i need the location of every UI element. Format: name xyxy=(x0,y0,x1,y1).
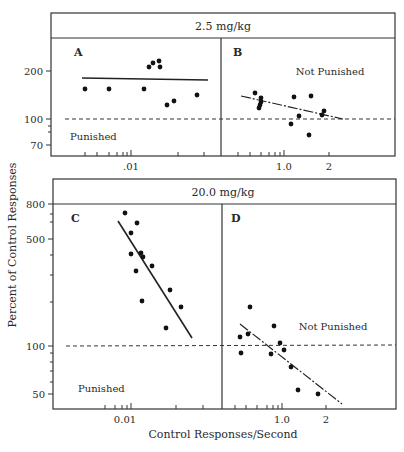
lower-x-ticks-right xyxy=(235,403,326,409)
lower-frame xyxy=(53,179,396,409)
lower-y-tick-800: 800 xyxy=(26,199,45,210)
y-axis-label: Percent of Control Responses xyxy=(6,162,19,327)
lower-y-tick-100: 100 xyxy=(26,341,45,352)
upper-x-tick-1: 1.0 xyxy=(276,161,292,172)
panel-d-letter: D xyxy=(231,212,241,225)
panel-a-regression-line xyxy=(82,78,208,80)
panel-c-region-label: Punished xyxy=(78,383,125,394)
lower-x-tick-001: 0.01 xyxy=(114,414,136,425)
panel-a-letter: A xyxy=(73,46,83,59)
lower-x-ticks-left xyxy=(105,403,203,409)
lower-reference-line-100 xyxy=(66,345,396,346)
panel-c-regression-line xyxy=(118,221,192,338)
upper-title: 2.5 mg/kg xyxy=(195,20,251,33)
panel-b-regression-line xyxy=(241,96,343,119)
upper-y-tick-70: 70 xyxy=(30,140,43,151)
lower-y-tick-50: 50 xyxy=(32,389,45,400)
upper-y-tick-200: 200 xyxy=(24,66,43,77)
lower-y-tick-500: 500 xyxy=(26,234,45,245)
upper-y-ticks xyxy=(46,71,51,145)
panel-c-letter: C xyxy=(71,212,80,225)
figure-canvas: 2.5 mg/kg 200 100 70 .01 1.0 2 A xyxy=(0,0,404,452)
panel-b-region-label: Not Punished xyxy=(296,66,365,77)
panel-b-letter: B xyxy=(233,46,242,59)
panel-d-region-label: Not Punished xyxy=(299,321,368,332)
upper-y-tick-100: 100 xyxy=(24,114,43,125)
upper-x-ticks-left xyxy=(85,150,204,156)
panel-c-points xyxy=(123,211,184,331)
x-axis-label: Control Responses/Second xyxy=(148,428,297,441)
panel-a-points xyxy=(83,59,200,108)
upper-x-ticks-right xyxy=(238,150,329,156)
panel-d-points xyxy=(238,305,321,397)
lower-y-ticks xyxy=(48,204,53,394)
upper-x-tick-2: 2 xyxy=(326,161,332,172)
lower-title: 20.0 mg/kg xyxy=(192,186,255,199)
upper-x-tick-001: .01 xyxy=(123,161,139,172)
lower-x-tick-1: 1.0 xyxy=(274,414,290,425)
panel-a-region-label: Punished xyxy=(70,131,117,142)
panel-d-regression-line xyxy=(240,324,342,404)
lower-x-tick-2: 2 xyxy=(323,414,329,425)
panel-b-points xyxy=(253,91,327,138)
